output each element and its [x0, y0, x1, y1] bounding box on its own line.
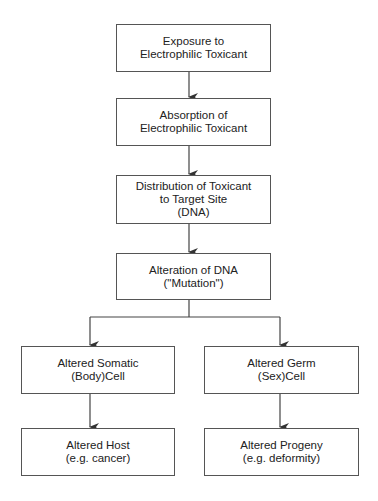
node-germ: Altered Germ (Sex)Cell: [204, 346, 359, 394]
node-text: Exposure to: [163, 35, 224, 48]
node-text: (e.g. deformity): [243, 452, 320, 465]
node-text: Altered Progeny: [240, 439, 322, 452]
connector-layer: [0, 0, 378, 501]
node-text: Distribution of Toxicant: [136, 180, 251, 193]
node-progeny: Altered Progeny (e.g. deformity): [204, 428, 359, 476]
node-text: Electrophilic Toxicant: [140, 48, 247, 61]
node-text: (Body)Cell: [71, 370, 125, 383]
node-absorption: Absorption of Electrophilic Toxicant: [116, 98, 271, 146]
node-text: (e.g. cancer): [66, 452, 131, 465]
node-text: Altered Somatic: [57, 357, 138, 370]
node-text: Electrophilic Toxicant: [140, 122, 247, 135]
node-alteration: Alteration of DNA ("Mutation"): [116, 253, 271, 300]
node-exposure: Exposure to Electrophilic Toxicant: [116, 24, 271, 72]
node-text: Altered Host: [66, 439, 129, 452]
node-text: (Sex)Cell: [258, 370, 305, 383]
node-text: Altered Germ: [247, 357, 315, 370]
node-text: Absorption of: [160, 109, 228, 122]
node-somatic: Altered Somatic (Body)Cell: [21, 346, 175, 394]
node-text: to Target Site: [160, 193, 228, 206]
node-distribution: Distribution of Toxicant to Target Site …: [116, 175, 271, 224]
node-host: Altered Host (e.g. cancer): [21, 428, 175, 476]
node-text: Alteration of DNA: [149, 264, 238, 277]
node-text: (DNA): [178, 206, 210, 219]
node-text: ("Mutation"): [164, 277, 224, 290]
